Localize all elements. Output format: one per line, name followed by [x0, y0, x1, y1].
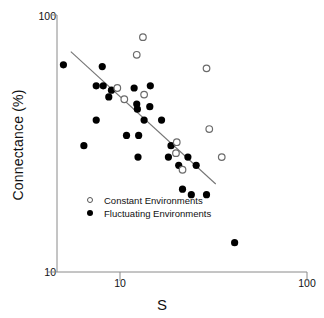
data-point-constant	[218, 154, 225, 161]
chart-figure: Connectance (%) 100 10 10 100 S Constant…	[0, 0, 324, 318]
data-point-constant	[114, 85, 121, 92]
data-point-fluctuating	[134, 153, 141, 160]
legend-label-fluctuating: Fluctuating Environments	[104, 208, 211, 219]
data-point-fluctuating	[231, 239, 238, 246]
data-point-fluctuating	[135, 132, 142, 139]
data-point-fluctuating	[93, 117, 100, 124]
data-point-fluctuating	[147, 82, 154, 89]
data-point-constant	[141, 91, 148, 98]
data-point-fluctuating	[158, 117, 165, 124]
data-point-fluctuating	[93, 82, 100, 89]
data-point-constant	[179, 166, 186, 173]
data-point-fluctuating	[141, 117, 148, 124]
data-point-fluctuating	[193, 162, 200, 169]
data-point-fluctuating	[165, 153, 172, 160]
data-point-fluctuating	[123, 132, 130, 139]
data-point-fluctuating	[179, 186, 186, 193]
open-point-group	[114, 34, 225, 173]
data-point-constant	[173, 150, 180, 157]
chart-legend: Constant Environments Fluctuating Enviro…	[82, 194, 211, 220]
data-point-constant	[121, 96, 128, 103]
data-point-fluctuating	[100, 82, 107, 89]
data-point-fluctuating	[105, 93, 112, 100]
data-point-constant	[133, 52, 140, 59]
legend-item-constant: Constant Environments	[82, 194, 211, 206]
filled-circle-icon	[82, 210, 98, 217]
data-point-fluctuating	[146, 103, 153, 110]
data-point-fluctuating	[184, 153, 191, 160]
data-point-constant	[173, 139, 180, 146]
data-point-fluctuating	[131, 84, 138, 91]
data-point-fluctuating	[134, 106, 141, 113]
open-circle-icon	[82, 197, 98, 203]
data-point-constant	[140, 34, 147, 41]
plot-data-layer	[0, 0, 324, 318]
legend-label-constant: Constant Environments	[104, 195, 203, 206]
data-point-constant	[206, 126, 213, 133]
legend-item-fluctuating: Fluctuating Environments	[82, 207, 211, 219]
data-point-fluctuating	[80, 142, 87, 149]
data-point-fluctuating	[99, 63, 106, 70]
data-point-fluctuating	[60, 61, 67, 68]
data-point-constant	[203, 65, 210, 72]
